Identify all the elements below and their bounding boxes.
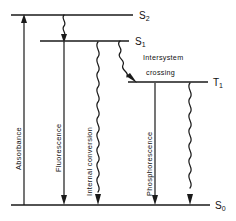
absorbance-arrow <box>21 14 27 205</box>
intersystem-crossing-wavy-arrow <box>118 41 137 83</box>
process-label-absorbance: Absorbance <box>14 127 23 170</box>
state-label-s0: S0 <box>215 200 226 213</box>
jablonski-diagram-canvas: S2 S1 T1 S0 Absorbance Fluorescence Inte… <box>0 0 236 221</box>
process-label-phosphorescence: Phosphorescence <box>145 132 154 196</box>
triplet-nonradiative-wavy-arrow <box>187 83 193 205</box>
process-label-internal-conversion: Internal conversion <box>85 127 94 196</box>
jablonski-diagram: S2 S1 T1 S0 Absorbance Fluorescence Inte… <box>0 0 236 221</box>
internal-conversion-s2-s1-wavy-arrow <box>61 15 67 43</box>
state-label-s1: S1 <box>135 36 146 49</box>
process-label-fluorescence: Fluorescence <box>54 123 63 172</box>
state-label-s2: S2 <box>139 10 150 23</box>
state-label-t1: T1 <box>213 77 223 90</box>
process-label-intersystem-line1: Intersystem <box>143 53 183 62</box>
internal-conversion-wavy-arrow <box>95 42 101 205</box>
process-label-intersystem-line2: crossing <box>146 68 175 77</box>
